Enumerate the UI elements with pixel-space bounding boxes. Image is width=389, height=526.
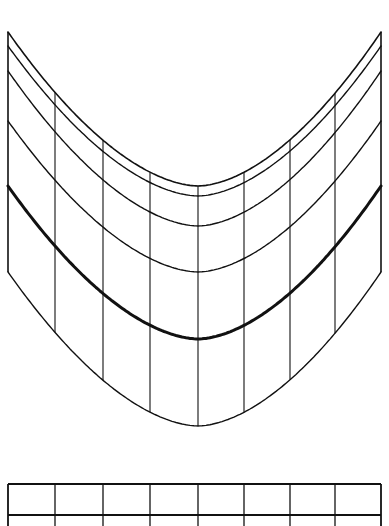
grid-diagram (0, 0, 389, 526)
flat-grid-strip (8, 484, 381, 526)
curved-grid-surface (8, 32, 381, 426)
top-curve (8, 32, 381, 186)
curve-2 (8, 46, 381, 196)
bottom-curve (8, 272, 381, 426)
curve-3 (8, 71, 381, 226)
thick-curve (8, 186, 381, 339)
diagram-canvas (0, 0, 389, 526)
